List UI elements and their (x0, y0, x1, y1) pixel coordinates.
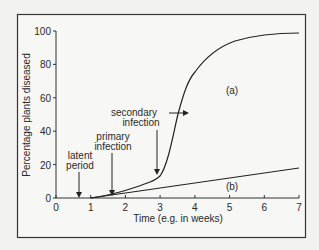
y-tick-60: 60 (40, 93, 52, 104)
disease-progress-chart: 0 20 40 60 80 100 0 1 2 3 4 5 6 7 Time (… (0, 0, 319, 250)
y-tick-80: 80 (40, 59, 52, 70)
x-tick-7: 7 (296, 202, 302, 213)
y-axis-label: Percentage plants diseased (21, 53, 32, 176)
y-tick-20: 20 (40, 160, 52, 171)
y-tick-0: 0 (45, 193, 51, 204)
svg-text:period: period (66, 160, 94, 171)
series-a-label: (a) (226, 85, 238, 96)
x-tick-0: 0 (53, 202, 59, 213)
x-tick-3: 3 (157, 202, 163, 213)
x-tick-6: 6 (262, 202, 268, 213)
series-b-label: (b) (226, 181, 238, 192)
x-tick-4: 4 (192, 202, 198, 213)
y-tick-100: 100 (34, 26, 51, 37)
x-tick-2: 2 (123, 202, 129, 213)
svg-text:infection: infection (122, 117, 159, 128)
y-tick-40: 40 (40, 126, 52, 137)
x-tick-5: 5 (227, 202, 233, 213)
svg-text:infection: infection (94, 141, 131, 152)
x-axis-label: Time (e.g. in weeks) (133, 213, 223, 224)
x-tick-1: 1 (88, 202, 94, 213)
